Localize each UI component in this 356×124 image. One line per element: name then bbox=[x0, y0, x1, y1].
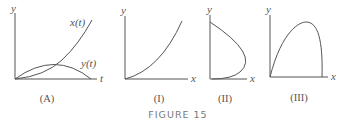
panel-iii: y x (III) bbox=[265, 3, 336, 104]
figure-15: y t x(t) y(t) (A) y x (I) y x (II) y x (… bbox=[0, 0, 356, 124]
panel-ii-caption: (II) bbox=[218, 93, 232, 105]
y-of-t-label: y(t) bbox=[80, 57, 97, 70]
t-axis-label: t bbox=[100, 72, 104, 84]
panel-i-caption: (I) bbox=[154, 93, 165, 105]
y-axis-label: y bbox=[206, 3, 212, 15]
x-of-t-label: x(t) bbox=[69, 16, 86, 29]
x-axis-label: x bbox=[249, 72, 255, 84]
y-axis-label: y bbox=[10, 2, 16, 14]
x-of-t-curve bbox=[15, 20, 92, 79]
curve-ii bbox=[210, 22, 246, 79]
panel-a: y t x(t) y(t) (A) bbox=[10, 2, 104, 105]
curve-iii bbox=[270, 22, 322, 77]
x-axis-label: x bbox=[330, 70, 336, 82]
panel-i: y x (I) bbox=[120, 4, 196, 105]
panel-iii-caption: (III) bbox=[290, 92, 308, 104]
y-axis-label: y bbox=[120, 4, 126, 16]
y-axis-label: y bbox=[265, 3, 271, 15]
x-axis-label: x bbox=[190, 72, 196, 84]
curve-i bbox=[125, 21, 182, 79]
panel-ii: y x (II) bbox=[206, 3, 255, 105]
figure-title: FIGURE 15 bbox=[148, 109, 207, 120]
panel-a-caption: (A) bbox=[40, 93, 55, 105]
